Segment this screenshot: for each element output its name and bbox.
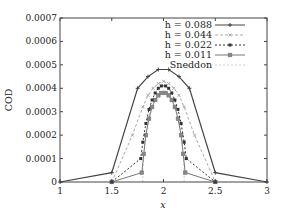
x-tick-label: 3 — [264, 186, 270, 196]
y-axis-ticks: 00.00010.00020.00030.00040.00050.00060.0… — [26, 13, 268, 187]
x-axis-ticks: 11.522.53 — [57, 18, 270, 196]
square-marker-icon — [142, 152, 146, 156]
filled-square-marker-icon — [164, 84, 167, 87]
y-tick-label: 0.0001 — [26, 154, 58, 164]
y-tick-label: 0.0005 — [26, 60, 58, 70]
series-line — [112, 81, 216, 182]
filled-square-marker-icon — [185, 157, 188, 160]
plus-marker-icon — [110, 171, 114, 175]
series-line — [143, 91, 184, 182]
filled-square-marker-icon — [141, 141, 144, 144]
square-marker-icon — [170, 98, 174, 102]
plot-frame — [60, 18, 267, 182]
y-tick-label: 0.0004 — [26, 83, 58, 93]
square-marker-icon — [183, 171, 187, 175]
x-tick-label: 1 — [57, 186, 63, 196]
square-marker-icon — [153, 98, 157, 102]
plus-marker-icon — [213, 171, 217, 175]
filled-square-marker-icon — [154, 91, 157, 94]
square-marker-icon — [147, 117, 151, 121]
y-tick-label: 0.0002 — [26, 130, 58, 140]
filled-square-marker-icon — [180, 122, 183, 125]
series-line — [112, 93, 216, 182]
x-marker-icon — [146, 94, 149, 97]
square-marker-icon — [140, 171, 144, 175]
filled-square-marker-icon — [148, 108, 151, 111]
x-axis-label: x — [160, 199, 166, 210]
filled-square-marker-icon — [229, 44, 232, 47]
y-tick-label: 0.0003 — [26, 107, 58, 117]
filled-square-marker-icon — [144, 122, 147, 125]
cod-line-chart: 00.00010.00020.00030.00040.00050.00060.0… — [0, 0, 283, 216]
square-marker-icon — [150, 105, 154, 109]
filled-square-marker-icon — [183, 141, 186, 144]
series-h-0-022 — [110, 84, 217, 183]
x-marker-icon — [172, 87, 175, 90]
square-marker-icon — [179, 133, 183, 137]
filled-square-marker-icon — [160, 84, 163, 87]
square-marker-icon — [167, 94, 171, 98]
square-marker-icon — [173, 105, 177, 109]
filled-square-marker-icon — [173, 99, 176, 102]
y-tick-label: 0.0007 — [26, 13, 58, 23]
square-marker-icon — [144, 133, 148, 137]
filled-square-marker-icon — [176, 108, 179, 111]
x-tick-label: 2.5 — [208, 186, 223, 196]
filled-square-marker-icon — [157, 87, 160, 90]
y-tick-label: 0.0006 — [26, 36, 58, 46]
square-marker-icon — [160, 91, 164, 95]
series-sneddon — [143, 91, 184, 182]
plus-marker-icon — [228, 23, 232, 27]
x-marker-icon — [152, 87, 155, 90]
square-marker-icon — [176, 117, 180, 121]
square-marker-icon — [181, 152, 185, 156]
square-marker-icon — [228, 53, 232, 57]
plot-area — [58, 68, 269, 184]
series-line — [112, 86, 216, 182]
filled-square-marker-icon — [139, 157, 142, 160]
legend-label: Sneddon — [170, 59, 212, 70]
x-tick-label: 1.5 — [105, 186, 120, 196]
legend: h = 0.088h = 0.044h = 0.022h = 0.011Sned… — [165, 19, 245, 70]
x-tick-label: 2 — [161, 186, 167, 196]
legend-item: Sneddon — [170, 59, 245, 70]
filled-square-marker-icon — [167, 87, 170, 90]
y-axis-label: COD — [3, 88, 14, 111]
series-h-0-088 — [58, 68, 269, 184]
series-h-0-044 — [110, 80, 217, 184]
filled-square-marker-icon — [170, 91, 173, 94]
filled-square-marker-icon — [151, 99, 154, 102]
